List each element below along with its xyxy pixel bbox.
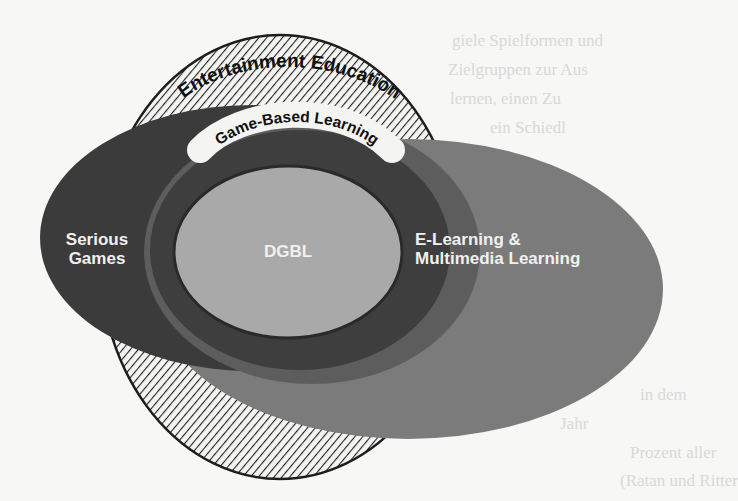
serious-games-label-line1: Serious	[52, 230, 142, 249]
serious-games-label: Serious Games	[52, 230, 142, 268]
e-learning-label: E-Learning & Multimedia Learning	[415, 230, 615, 268]
serious-games-label-line2: Games	[52, 249, 142, 268]
e-learning-label-line2: Multimedia Learning	[415, 249, 615, 268]
e-learning-label-line1: E-Learning &	[415, 230, 615, 249]
dgbl-label: DGBL	[253, 242, 323, 261]
